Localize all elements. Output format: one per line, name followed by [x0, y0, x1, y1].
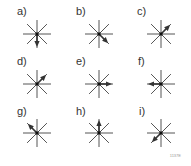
star-c-arrow-ne-icon	[144, 17, 178, 51]
star-f-arrow-w-icon	[144, 67, 178, 101]
panel-label-e: e)	[76, 56, 86, 67]
panel-label-a: a)	[17, 6, 27, 17]
panel-label-b: b)	[76, 6, 86, 17]
panel-label-f: f)	[138, 56, 145, 67]
star-b-arrow-se-icon	[82, 17, 116, 51]
star-e-arrow-e-icon	[82, 67, 116, 101]
star-h-arrow-n-icon	[82, 116, 116, 150]
star-i-arrow-sw-icon	[144, 116, 178, 150]
panel-label-c: c)	[137, 6, 146, 17]
star-d-arrow-ne-icon	[20, 67, 54, 101]
figure-id-label: 1137E	[170, 153, 181, 158]
panel-label-d: d)	[17, 56, 27, 67]
star-g-arrow-nw-icon	[20, 116, 54, 150]
star-a-arrow-s-icon	[20, 17, 54, 51]
